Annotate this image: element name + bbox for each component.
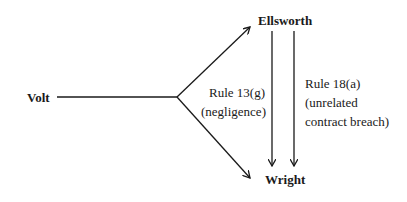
node-wright: Wright [265,173,305,186]
node-volt: Volt [27,91,50,104]
rule-13g-label: Rule 13(g) [209,86,265,99]
rule-18a-description-line2: contract breach) [305,115,389,128]
rule-18a-description-line1: (unrelated [305,96,358,109]
rule-13g-description: (negligence) [201,105,266,118]
rule-18a-label: Rule 18(a) [305,77,360,90]
node-ellsworth: Ellsworth [258,14,312,27]
